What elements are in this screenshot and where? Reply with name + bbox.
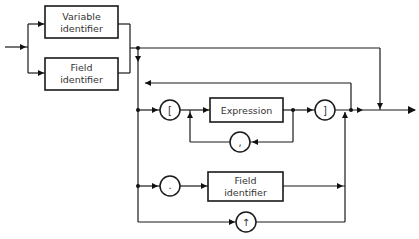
field-identifier-top-line1: Field — [71, 62, 93, 73]
index-row: [ Expression ] — [136, 98, 416, 122]
field-identifier-bottom-line1: Field — [235, 175, 257, 186]
entry-path — [5, 21, 45, 76]
variable-identifier-line2: identifier — [60, 23, 103, 34]
field-selector-row: . Field identifier — [136, 172, 345, 201]
expression-label: Expression — [221, 105, 273, 116]
pointer-symbol: ↑ — [242, 217, 250, 228]
identifier-join — [118, 24, 140, 73]
open-bracket-symbol: [ — [168, 105, 172, 116]
exit-arrow — [408, 106, 416, 114]
close-bracket-symbol: ] — [323, 105, 327, 116]
syntax-diagram: Variable identifier Field identifier — [0, 0, 419, 239]
comma-symbol: , — [238, 137, 241, 148]
field-identifier-bottom-line2: identifier — [224, 187, 267, 198]
field-identifier-top-line2: identifier — [60, 74, 103, 85]
variable-identifier-box: Variable identifier — [45, 6, 118, 38]
field-identifier-box-top: Field identifier — [45, 58, 118, 90]
period-symbol: . — [168, 180, 171, 191]
variable-identifier-line1: Variable — [62, 11, 101, 22]
